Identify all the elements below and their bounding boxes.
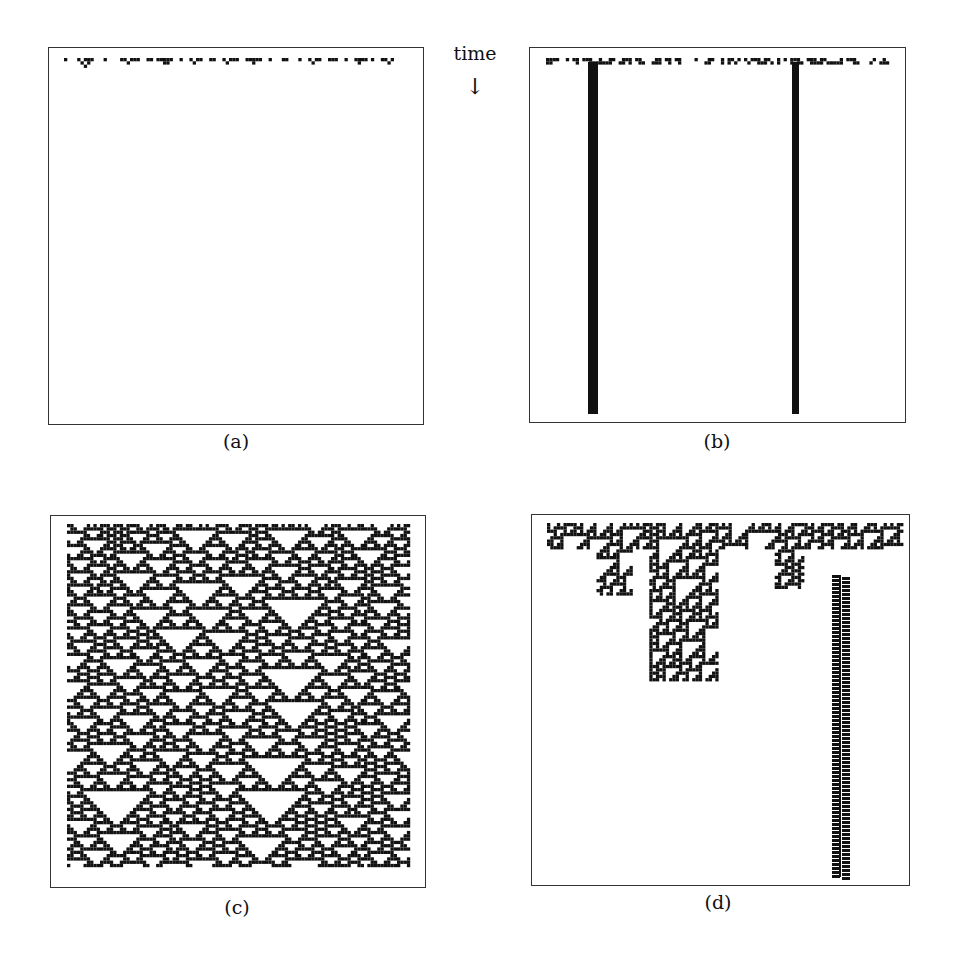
- caption-a: (a): [206, 430, 266, 452]
- caption-d: (d): [688, 891, 748, 913]
- time-axis-label: time: [448, 42, 502, 64]
- ca-pattern-b: [530, 48, 907, 424]
- caption-b: (b): [687, 430, 747, 452]
- panel-b: [529, 47, 906, 423]
- ca-pattern-d: [532, 515, 911, 887]
- ca-pattern-a: [49, 48, 425, 426]
- panel-d: [531, 514, 910, 886]
- caption-c: (c): [207, 896, 267, 918]
- panel-c: [50, 515, 426, 888]
- time-arrow-icon: ↓: [462, 74, 488, 99]
- ca-pattern-c: [51, 516, 427, 889]
- panel-a: [48, 47, 424, 425]
